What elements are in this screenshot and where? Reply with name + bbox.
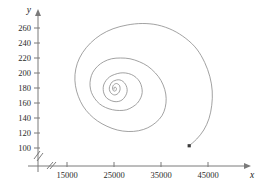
y-tick-label: 140 [18, 113, 31, 123]
y-axis-arrow [35, 9, 41, 16]
start-point-marker [188, 144, 191, 147]
x-tick-label: 45000 [197, 170, 218, 180]
chart-svg: 1500025000350004500010012014016018020022… [0, 0, 269, 191]
x-tick-label: 35000 [150, 170, 171, 180]
y-tick-label: 220 [18, 53, 31, 63]
y-axis-label: y [26, 5, 32, 15]
y-tick-label: 100 [18, 143, 31, 153]
y-tick-label: 120 [18, 128, 31, 138]
x-tick-label: 15000 [56, 170, 77, 180]
x-tick-label: 25000 [103, 170, 124, 180]
y-tick-label: 180 [18, 83, 31, 93]
x-axis-arrow [244, 163, 251, 169]
phase-plane-chart: 1500025000350004500010012014016018020022… [0, 0, 269, 191]
x-axis-label: x [249, 170, 255, 180]
y-tick-label: 260 [18, 23, 31, 33]
y-tick-label: 240 [18, 38, 31, 48]
trajectory-curve [75, 24, 213, 146]
y-tick-label: 200 [18, 68, 31, 78]
y-tick-label: 160 [18, 98, 31, 108]
